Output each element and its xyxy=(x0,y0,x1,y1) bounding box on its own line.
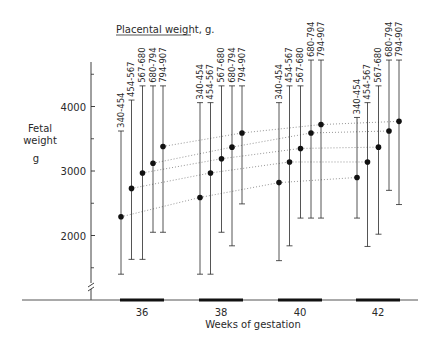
error-bar: 794-907 xyxy=(394,22,404,205)
series-label: 340-454 xyxy=(352,79,362,115)
fetal-weight-chart: Placental weight, g. Fetal weight g 2000… xyxy=(0,0,422,350)
error-bar: 680-794 xyxy=(306,22,316,219)
mean-dot xyxy=(160,144,166,150)
x-tick-label: 42 xyxy=(372,307,385,318)
error-bar: 340-454 xyxy=(116,92,126,274)
mean-dot xyxy=(298,146,304,152)
series-label: 567-680 xyxy=(374,47,384,83)
error-bar: 454-567 xyxy=(285,47,295,245)
week-band xyxy=(278,299,322,302)
y-label-line: weight xyxy=(23,135,57,146)
trend-line-454-567 xyxy=(211,162,290,173)
mean-dot xyxy=(396,119,402,125)
error-bar: 680-794 xyxy=(384,22,394,191)
error-bar: 340-454 xyxy=(352,79,362,218)
error-bar: 794-907 xyxy=(237,47,247,204)
mean-dot xyxy=(219,156,225,162)
error-bar: 794-907 xyxy=(158,47,168,232)
error-bar: 567-680 xyxy=(296,47,306,218)
x-axis: 36384042 xyxy=(22,299,418,319)
error-bar: 567-680 xyxy=(374,47,384,234)
x-tick-label: 38 xyxy=(215,307,228,318)
mean-dot xyxy=(129,186,135,192)
series-label: 680-794 xyxy=(227,47,237,83)
error-bar: 567-680 xyxy=(138,47,148,259)
y-axis: 200030004000 xyxy=(61,62,95,300)
mean-dot xyxy=(140,170,146,176)
axis-break-mark xyxy=(88,283,94,287)
series-label: 454-567 xyxy=(285,47,295,83)
mean-dot xyxy=(208,170,214,176)
series-label: 567-680 xyxy=(217,47,227,83)
series-label: 454-567 xyxy=(206,64,216,100)
series-label: 454-567 xyxy=(363,64,373,100)
error-bar: 567-680 xyxy=(217,47,227,232)
trend-line-340-454 xyxy=(121,197,200,216)
series-label: 340-454 xyxy=(274,64,284,100)
trend-line-567-680 xyxy=(222,148,301,158)
mean-dot xyxy=(386,128,392,134)
week-band xyxy=(120,299,164,302)
trend-line-340-454 xyxy=(200,183,279,198)
x-tick-label: 36 xyxy=(136,307,149,318)
trend-line-680-794 xyxy=(311,131,389,133)
mean-dot xyxy=(365,159,371,165)
y-axis-label: Fetal weight g xyxy=(23,123,57,164)
error-bar: 794-907 xyxy=(316,22,326,219)
y-tick-label: 3000 xyxy=(61,166,86,177)
x-axis-label: Weeks of gestation xyxy=(205,319,301,330)
mean-dot xyxy=(150,160,156,166)
series-label: 794-907 xyxy=(316,22,326,58)
series-label: 567-680 xyxy=(138,47,148,83)
mean-dot xyxy=(197,195,203,201)
trend-line-567-680 xyxy=(301,147,379,148)
series-label: 794-907 xyxy=(158,47,168,83)
mean-dot xyxy=(229,144,235,150)
trend-line-680-794 xyxy=(232,133,311,147)
error-bar: 340-454 xyxy=(195,64,205,274)
series-label: 680-794 xyxy=(148,47,158,83)
error-bar: 454-567 xyxy=(127,62,137,260)
mean-dot xyxy=(376,144,382,150)
series-label: 794-907 xyxy=(237,47,247,83)
series-label: 454-567 xyxy=(127,62,137,98)
y-label-line: g xyxy=(33,153,39,164)
mean-dot xyxy=(318,122,324,128)
mean-dot xyxy=(239,130,245,136)
x-tick-label: 40 xyxy=(294,307,307,318)
week-band xyxy=(356,299,400,302)
error-bar: 454-567 xyxy=(206,64,216,274)
mean-dot xyxy=(287,159,293,165)
mean-dot xyxy=(308,130,314,136)
mean-dot xyxy=(354,175,360,181)
trend-line-794-907 xyxy=(163,133,242,147)
y-tick-label: 4000 xyxy=(61,102,86,113)
error-bar: 454-567 xyxy=(363,64,373,246)
series-label: 680-794 xyxy=(306,22,316,58)
series-label: 680-794 xyxy=(384,22,394,58)
trend-line-340-454 xyxy=(279,177,357,182)
week-band xyxy=(199,299,243,302)
series-label: 340-454 xyxy=(116,92,126,128)
series-label: 794-907 xyxy=(394,22,404,58)
legend-title: Placental weight, g. xyxy=(116,24,215,35)
mean-dot xyxy=(276,180,282,186)
series-label: 567-680 xyxy=(296,47,306,83)
error-bar: 680-794 xyxy=(148,47,158,232)
y-label-line: Fetal xyxy=(28,123,52,134)
y-tick-label: 2000 xyxy=(61,231,86,242)
chart-title: Placental weight, g. xyxy=(116,24,215,35)
trend-line-794-907 xyxy=(321,121,399,124)
error-bar: 340-454 xyxy=(274,64,284,261)
mean-dot xyxy=(118,214,124,220)
series-label: 340-454 xyxy=(195,64,205,100)
